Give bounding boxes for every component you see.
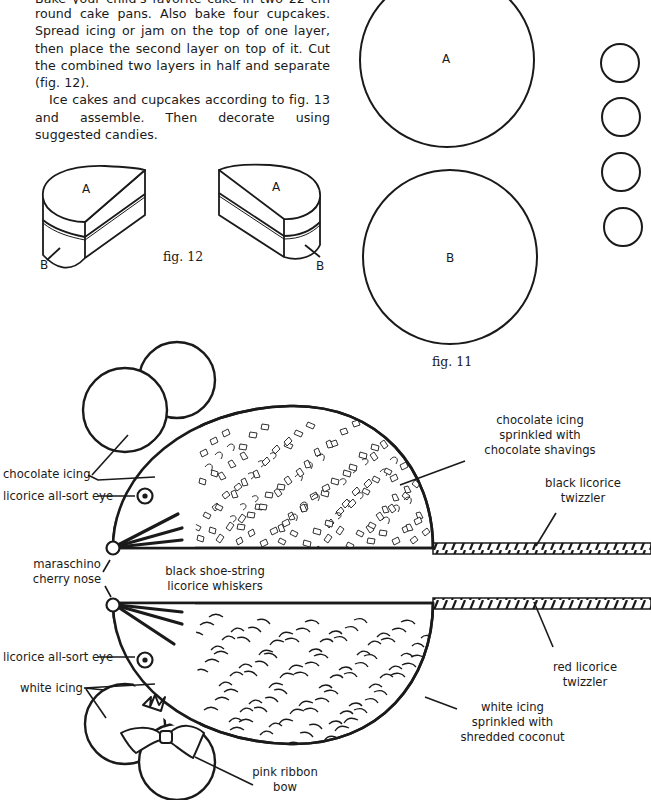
cupcake-circle-4 xyxy=(604,208,642,246)
label-bow: pink ribbon bow xyxy=(245,765,325,795)
label-nose-line-2: cherry nose xyxy=(22,572,112,587)
black-licorice-twizzler xyxy=(433,543,651,554)
label-top-body: chocolate icing sprinkled with chocolate… xyxy=(465,413,615,458)
fig11-diagram xyxy=(360,0,642,344)
label-bottom-tail: red licorice twizzler xyxy=(530,660,640,690)
label-bow-line-1: pink ribbon xyxy=(245,765,325,780)
label-top-tail: black licorice twizzler xyxy=(528,476,638,506)
fig12-left-cake-half xyxy=(43,166,145,268)
label-top-ears: chocolate icing xyxy=(3,467,91,482)
label-bottom-tail-line-1: red licorice xyxy=(530,660,640,675)
label-top-body-line-3: chocolate shavings xyxy=(465,443,615,458)
label-top-tail-line-1: black licorice xyxy=(528,476,638,491)
label-bottom-body-line-2: sprinkled with xyxy=(445,715,580,730)
cupcake-circle-1 xyxy=(601,44,639,82)
label-bottom-body-line-3: shredded coconut xyxy=(445,730,580,745)
fig12-left-side-label: B xyxy=(40,258,48,272)
cupcake-circle-2 xyxy=(602,98,640,136)
fig12-right-side-label: B xyxy=(316,259,324,273)
label-bottom-eye: licorice all-sort eye xyxy=(3,650,113,665)
label-bottom-tail-line-2: twizzler xyxy=(530,675,640,690)
label-whiskers-line-2: licorice whiskers xyxy=(155,579,275,594)
fig12-left-top-label: A xyxy=(82,182,90,196)
label-whiskers: black shoe-string licorice whiskers xyxy=(155,564,275,594)
label-bottom-ears: white icing xyxy=(20,681,83,696)
label-whiskers-line-1: black shoe-string xyxy=(155,564,275,579)
label-bottom-body: white icing sprinkled with shredded coco… xyxy=(445,700,580,745)
cupcake-circle-3 xyxy=(602,153,640,191)
red-licorice-twizzler xyxy=(433,598,651,609)
label-top-body-line-2: sprinkled with xyxy=(465,428,615,443)
fig12-right-cake-half xyxy=(219,165,320,259)
fig12-caption: fig. 12 xyxy=(163,249,203,264)
label-top-tail-line-2: twizzler xyxy=(528,491,638,506)
label-nose-line-1: maraschino xyxy=(22,557,112,572)
fig11-caption: fig. 11 xyxy=(432,354,472,369)
label-top-body-line-1: chocolate icing xyxy=(465,413,615,428)
label-bow-line-2: bow xyxy=(245,780,325,795)
label-nose: maraschino cherry nose xyxy=(22,557,112,587)
bottom-mouse-cherry-nose xyxy=(107,599,120,612)
fig11-circle-a-label: A xyxy=(442,52,450,66)
label-top-eye: licorice all-sort eye xyxy=(3,489,113,504)
fig11-circle-b-label: B xyxy=(446,251,454,265)
cake-circle-a xyxy=(360,0,534,147)
top-mouse-cherry-nose xyxy=(107,542,120,555)
label-bottom-body-line-1: white icing xyxy=(445,700,580,715)
fig12-right-top-label: A xyxy=(272,180,280,194)
